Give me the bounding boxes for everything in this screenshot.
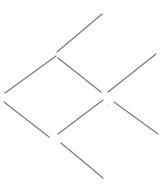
diamond-lower-right-edge-line — [58, 100, 103, 134]
diagonal-lattice-svg — [0, 0, 165, 192]
diamond-upper-left-edge-line — [5, 56, 56, 93]
right-upper-spoke-line — [108, 54, 156, 92]
bottom-spoke-line — [61, 143, 103, 178]
line-pattern-canvas — [0, 0, 165, 192]
diamond-lower-left-edge-line — [4, 102, 49, 137]
right-lower-spoke-line — [114, 102, 158, 134]
faint-speck — [108, 105, 109, 106]
diamond-upper-right-edge-line — [58, 58, 101, 92]
top-spoke-line — [57, 14, 102, 52]
